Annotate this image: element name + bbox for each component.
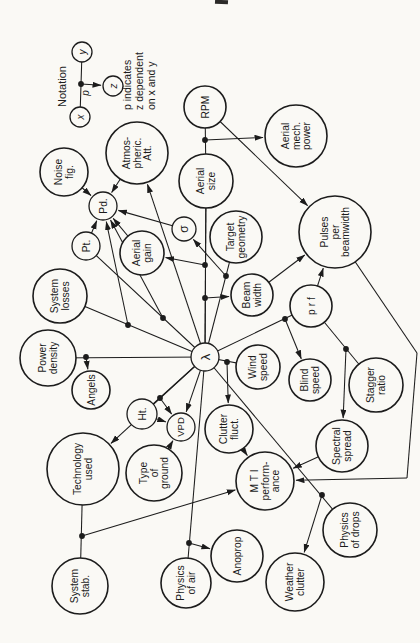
junction-dot bbox=[319, 492, 325, 498]
legend-caption-line-1: p indicates bbox=[121, 60, 133, 110]
junction-dot bbox=[224, 359, 230, 365]
node-label-lz: z bbox=[108, 84, 119, 90]
junction-dot bbox=[282, 316, 288, 322]
node-label-aerial_mech: Aerialmech.power bbox=[280, 121, 312, 150]
node-label-prf: p r f bbox=[306, 297, 317, 315]
node-label-sigma: σ bbox=[177, 225, 191, 233]
legend-caption-line-3: on x and y bbox=[145, 61, 157, 110]
junction-dot bbox=[157, 395, 163, 401]
node-label-wind_speed: Windspeed bbox=[247, 353, 269, 381]
node-label-ht: Ht. bbox=[137, 407, 148, 420]
node-label-ly: y bbox=[77, 49, 88, 56]
junction-dot bbox=[202, 137, 208, 143]
node-label-angels: Angels bbox=[86, 374, 97, 405]
junction-dot bbox=[125, 322, 131, 328]
node-label-lambda: λ bbox=[198, 353, 213, 360]
node-label-pd: Pd. bbox=[98, 198, 109, 213]
legend-title: Notation bbox=[56, 66, 68, 107]
scanned-diagram-page: RPMAerialmech.powerNoisefig.Atmos-pheric… bbox=[0, 0, 420, 643]
legend-dot-label: p bbox=[80, 90, 91, 97]
node-label-physics_drops: Physicsof drops bbox=[339, 511, 361, 548]
node-label-beam_width: Beamwidth bbox=[241, 282, 263, 309]
node-label-lx: x bbox=[75, 114, 86, 121]
radar-parameter-dependency-diagram: RPMAerialmech.powerNoisefig.Atmos-pheric… bbox=[0, 0, 420, 643]
node-label-vpd: VPD bbox=[175, 417, 186, 437]
node-label-spectral: Spectralspread bbox=[331, 427, 353, 465]
node-label-aerial_gain: Aerialgain bbox=[131, 240, 153, 266]
junction-dot bbox=[83, 354, 89, 360]
node-label-rpm: RPM bbox=[200, 96, 211, 119]
junction-dot bbox=[186, 540, 192, 546]
legend-caption-line-2: z dependent bbox=[133, 52, 145, 110]
junction-dot bbox=[343, 346, 349, 352]
scan-artifact bbox=[215, 0, 228, 4]
node-label-anoprop: Anoprop bbox=[232, 536, 243, 575]
junction-dot bbox=[202, 262, 208, 268]
node-label-pt: Pt. bbox=[81, 240, 92, 253]
junction-dot bbox=[223, 273, 229, 279]
junction-dot bbox=[79, 533, 85, 539]
legend-junction-dot bbox=[78, 81, 84, 87]
junction-dot bbox=[160, 315, 166, 321]
node-label-sys_losses: Systemlosses bbox=[49, 279, 71, 313]
node-label-blind_speed: Blindspeed bbox=[299, 366, 321, 394]
node-label-power_density: Powerdensity bbox=[37, 341, 59, 374]
junction-dot bbox=[202, 295, 208, 301]
